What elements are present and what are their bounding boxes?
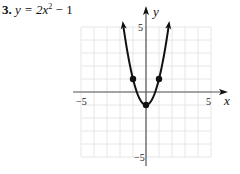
data-point <box>130 76 136 82</box>
data-point <box>156 76 162 82</box>
axis-labels: −555−5xy <box>76 4 230 163</box>
data-point <box>143 102 149 108</box>
x-tick-label-5: 5 <box>206 96 211 107</box>
y-tick-label-neg5: −5 <box>134 152 145 163</box>
x-tick-label-neg5: −5 <box>76 96 87 107</box>
y-axis-label: y <box>151 4 159 19</box>
y-tick-label-5: 5 <box>138 22 143 33</box>
axes <box>73 6 228 166</box>
x-axis-label: x <box>223 93 230 108</box>
parabola-chart: −555−5xy <box>0 0 240 174</box>
